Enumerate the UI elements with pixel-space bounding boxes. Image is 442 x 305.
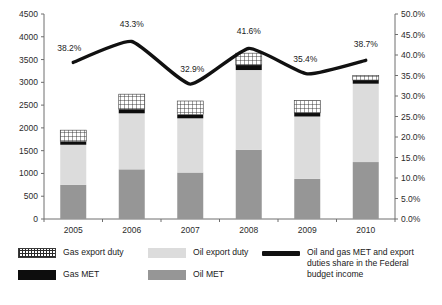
legend-label-gas-export-duty: Gas export duty [63, 247, 124, 258]
bar-segment [353, 162, 379, 219]
legend-item-oil-export-duty: Oil export duty [148, 247, 268, 258]
share-line-path [73, 41, 366, 84]
legend-label-oil-met: Oil MET [193, 269, 224, 280]
legend-item-gas-export-duty: Gas export duty [18, 247, 153, 258]
bar-segment [353, 80, 379, 84]
y-axis-left-tick: 2500 [19, 100, 38, 110]
y-axis-right-tick: 45.0% [401, 30, 426, 40]
bar-segment [119, 113, 145, 169]
y-axis-right-tick: 35.0% [401, 71, 426, 81]
bar-segment [119, 169, 145, 219]
y-axis-right-tick: 0.0% [401, 214, 421, 224]
x-axis-year-label: 2007 [181, 225, 200, 235]
oil-export-duty-swatch-icon [148, 248, 186, 258]
x-axis-year-label: 2006 [122, 225, 141, 235]
oil-met-swatch-icon [148, 270, 186, 280]
y-axis-right-tick: 25.0% [401, 112, 426, 122]
share-value-label: 32.9% [180, 64, 205, 74]
y-axis-left-tick: 2000 [19, 123, 38, 133]
bar-segment [294, 179, 320, 219]
bar-segment [294, 117, 320, 179]
y-axis-left-tick: 4000 [19, 32, 38, 42]
bar-segment [236, 70, 262, 150]
share-value-label: 38.7% [354, 39, 379, 49]
bar-segment [60, 130, 86, 141]
share-value-label: 35.4% [293, 54, 318, 64]
gas-met-swatch-icon [18, 270, 56, 280]
x-axis-year-labels: 200520062007200820092010 [64, 225, 376, 235]
legend-label-oil-export-duty: Oil export duty [193, 247, 248, 258]
bar-segment [294, 113, 320, 117]
share-value-label: 43.3% [120, 19, 145, 29]
bar-segment [177, 118, 203, 172]
chart-legend: Gas export duty Gas MET Oil export duty … [0, 243, 442, 305]
y-axis-left-tick: 3500 [19, 55, 38, 65]
share-value-label: 38.2% [57, 43, 82, 53]
x-axis-year-label: 2008 [239, 225, 258, 235]
bar-segment [294, 101, 320, 113]
bar-segment [177, 173, 203, 219]
share-value-label: 41.6% [237, 26, 262, 36]
bar-segment [353, 76, 379, 81]
y-axis-right-tick: 50.0% [401, 9, 426, 19]
y-axis-right-tick: 15.0% [401, 153, 426, 163]
chart-container: 0500100015002000250030003500400045000.0%… [0, 0, 442, 305]
y-axis-left-tick: 3000 [19, 77, 38, 87]
bar-segment [353, 84, 379, 162]
legend-label-share-line: Oil and gas MET and export duties share … [307, 247, 414, 280]
bar-segment [60, 145, 86, 185]
legend-label-gas-met: Gas MET [63, 269, 99, 280]
bar-segment [119, 109, 145, 113]
legend-item-gas-met: Gas MET [18, 269, 153, 280]
y-axis-left-tick: 1000 [19, 168, 38, 178]
bar-segment [60, 142, 86, 145]
y-axis-right-tick: 40.0% [401, 50, 426, 60]
y-axis-left-tick: 0 [33, 214, 38, 224]
share-line-swatch-icon [262, 251, 300, 256]
share-line-labels: 38.2%43.3%32.9%41.6%35.4%38.7% [57, 19, 378, 74]
y-axis-right-tick: 30.0% [401, 91, 426, 101]
bar-segment [236, 150, 262, 219]
y-axis-right-tick: 5.0% [401, 194, 421, 204]
share-line-series [73, 41, 366, 84]
legend-item-oil-met: Oil MET [148, 269, 268, 280]
gas-export-duty-swatch-icon [18, 248, 56, 258]
y-axis-right-tick: 10.0% [401, 173, 426, 183]
y-axis-left-tick: 1500 [19, 146, 38, 156]
y-axis-left-tick: 500 [24, 191, 38, 201]
bar-segment [119, 94, 145, 109]
bar-segment [236, 53, 262, 65]
bar-segment [236, 65, 262, 70]
y-axis-left-tick: 4500 [19, 9, 38, 19]
y-axis-right-tick: 20.0% [401, 132, 426, 142]
bar-segment [60, 185, 86, 219]
bar-segment [177, 115, 203, 119]
x-axis-year-label: 2009 [298, 225, 317, 235]
legend-item-share-line: Oil and gas MET and export duties share … [262, 247, 440, 280]
bar-segment [177, 101, 203, 115]
bars-layer [60, 53, 379, 219]
x-axis-year-label: 2010 [356, 225, 375, 235]
x-axis-year-label: 2005 [64, 225, 83, 235]
